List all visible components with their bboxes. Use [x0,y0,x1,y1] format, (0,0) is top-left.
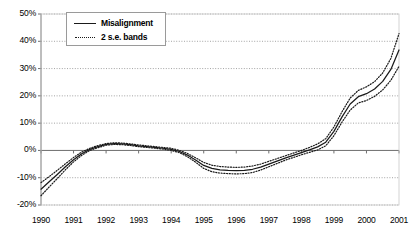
y-axis-tick-label: 10% [0,117,36,127]
y-axis-tick-label: 50% [0,8,36,18]
legend-label-misalignment: Misalignment [101,18,153,28]
y-axis-tick-label: -20% [0,199,36,209]
y-axis-tick-label: 20% [0,90,36,100]
y-axis-tick-label: 30% [0,63,36,73]
y-axis-tick-label: 0% [0,144,36,154]
legend-item-misalignment: Misalignment [73,16,153,30]
misalignment-chart: 50%40%30%20%10%0%-10%-20% 19901991199219… [0,0,411,237]
data-series [41,34,399,196]
legend-item-se-bands: 2 s.e. bands [73,30,147,44]
x-axis-tick-label: 2001 [379,215,411,225]
y-axis-tick-label: -10% [0,172,36,182]
y-axis-tick-label: 40% [0,35,36,45]
plot-canvas [0,0,411,237]
chart-legend: Misalignment 2 s.e. bands [66,12,166,46]
legend-solid-line-icon [73,18,97,28]
legend-label-se-bands: 2 s.e. bands [101,32,147,42]
legend-dotted-line-icon [73,32,97,42]
